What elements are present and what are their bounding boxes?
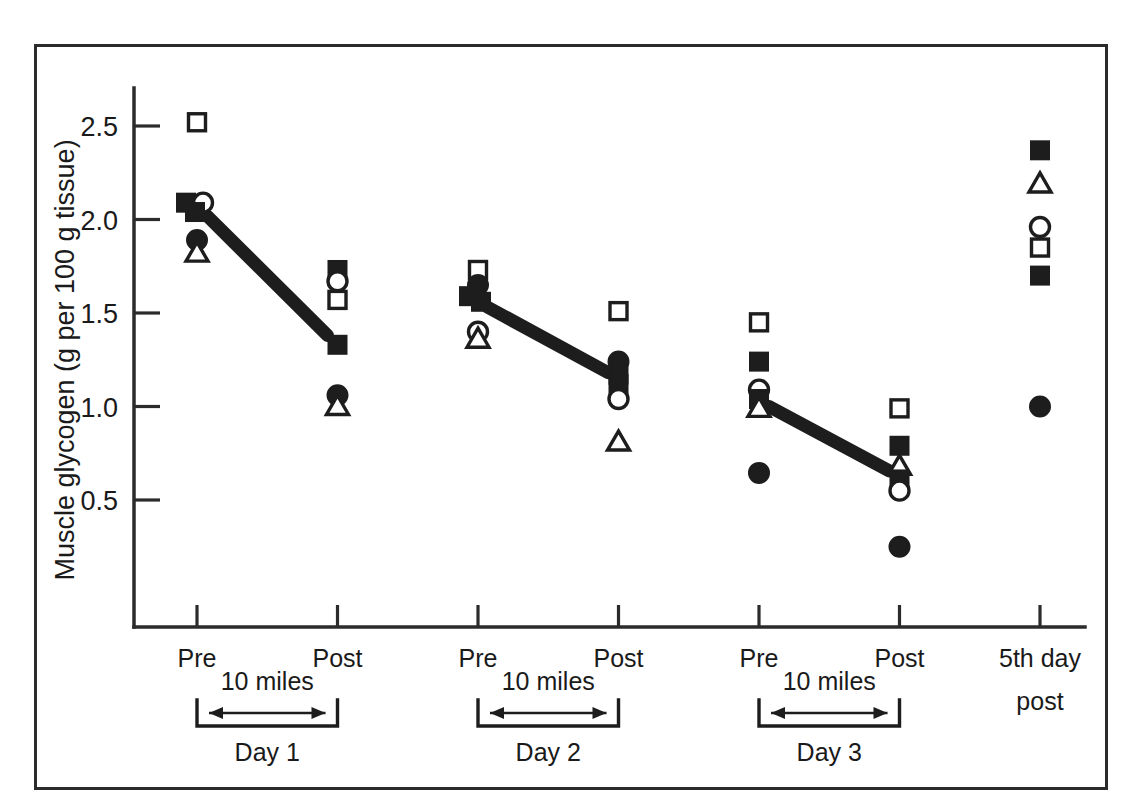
arrow-head-left-icon xyxy=(490,707,504,719)
data-point-filled-square xyxy=(750,353,768,371)
y-axis-tick-label: 2.5 xyxy=(80,112,118,142)
data-point-open-square xyxy=(610,303,627,320)
x-axis-tick-label: Post xyxy=(874,644,924,672)
data-point-open-square xyxy=(1032,239,1049,256)
x-axis-tick-label: Pre xyxy=(740,644,779,672)
scatter-plot: 0.51.01.52.02.5 PrePostPrePostPrePost5th… xyxy=(0,0,1140,812)
figure-canvas: 0.51.01.52.02.5 PrePostPrePostPrePost5th… xyxy=(0,0,1140,812)
data-point-filled-circle xyxy=(749,463,769,483)
arrow-head-left-icon xyxy=(771,707,785,719)
data-point-open-square xyxy=(751,314,768,331)
data-point-filled-square xyxy=(472,293,490,311)
data-point-filled-circle xyxy=(1030,397,1050,417)
axis-label-group: Muscle glycogen (g per 100 g tissue) xyxy=(50,139,80,580)
data-point-open-square xyxy=(891,400,908,417)
trend-line-group xyxy=(207,216,890,471)
x-axis-tick-label: 5th day xyxy=(999,644,1082,672)
arrow-head-right-icon xyxy=(312,707,326,719)
data-point-filled-square xyxy=(186,203,204,221)
data-point-filled-circle xyxy=(890,537,910,557)
data-point-open-circle xyxy=(609,390,628,409)
data-point-open-circle xyxy=(890,481,909,500)
day-label-3: Day 3 xyxy=(797,738,862,766)
data-point-open-triangle xyxy=(608,431,630,450)
bracket-distance-label: 10 miles xyxy=(502,667,595,695)
y-tick-group: 0.51.01.52.02.5 xyxy=(80,112,160,516)
arrow-head-left-icon xyxy=(209,707,223,719)
x-axis-tick-label-second-line: post xyxy=(1016,687,1063,715)
data-point-filled-square xyxy=(329,336,347,354)
y-axis-tick-label: 1.0 xyxy=(80,393,118,423)
y-axis-title: Muscle glycogen (g per 100 g tissue) xyxy=(50,139,80,580)
data-point-open-triangle xyxy=(1029,173,1051,192)
trend-line-day-2 xyxy=(488,307,609,372)
arrow-head-right-icon xyxy=(874,707,888,719)
x-tick-group: PrePostPrePostPrePost5th daypost xyxy=(178,605,1082,715)
x-axis-tick-label: Pre xyxy=(459,644,498,672)
data-point-open-square xyxy=(189,114,206,131)
trend-line-day-1 xyxy=(207,216,328,336)
y-axis-tick-label: 2.0 xyxy=(80,206,118,236)
x-axis-tick-label: Post xyxy=(593,644,643,672)
data-point-open-circle xyxy=(328,272,347,291)
data-marker-group xyxy=(177,114,1051,557)
bracket-annotation-group: 10 milesDay 110 milesDay 210 milesDay 3 xyxy=(197,667,900,766)
trend-line-day-3 xyxy=(769,407,890,472)
data-point-open-square xyxy=(329,291,346,308)
x-axis-tick-label: Pre xyxy=(178,644,217,672)
data-point-filled-square xyxy=(1031,267,1049,285)
arrow-head-right-icon xyxy=(593,707,607,719)
data-point-open-circle xyxy=(1031,217,1050,236)
x-axis-tick-label: Post xyxy=(312,644,362,672)
day-label-1: Day 1 xyxy=(235,738,300,766)
bracket-distance-label: 10 miles xyxy=(783,667,876,695)
data-point-filled-square xyxy=(1031,141,1049,159)
y-axis-tick-label: 1.5 xyxy=(80,299,118,329)
day-label-2: Day 2 xyxy=(516,738,581,766)
bracket-distance-label: 10 miles xyxy=(221,667,314,695)
y-axis-tick-label: 0.5 xyxy=(80,486,118,516)
